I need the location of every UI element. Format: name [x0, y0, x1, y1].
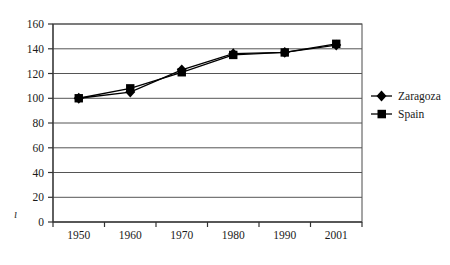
line-chart: 160 140 120 100 80 60 40 20 0 1950 1960 … — [0, 0, 450, 265]
data-point-spain-1960 — [126, 84, 134, 92]
data-point-spain-1970 — [178, 68, 186, 76]
y-tick-label-40: 40 — [33, 167, 45, 179]
y-tick-label-0: 0 — [38, 216, 44, 228]
x-tick-label-1980: 1980 — [222, 229, 245, 241]
x-tick-label-1970: 1970 — [170, 229, 193, 241]
x-tick-label-1950: 1950 — [67, 229, 90, 241]
square-icon — [378, 110, 387, 119]
x-tick-label-2001: 2001 — [325, 229, 348, 241]
chart-figure: 160 140 120 100 80 60 40 20 0 1950 1960 … — [0, 0, 450, 265]
x-tick-label-1990: 1990 — [273, 229, 296, 241]
legend-entry-zaragoza[interactable]: Zaragoza — [371, 90, 441, 103]
scan-artifact-mark: ı — [14, 207, 17, 221]
y-tick-label-140: 140 — [27, 43, 45, 55]
y-tick-label-20: 20 — [33, 191, 45, 203]
chart-background — [0, 0, 450, 265]
data-point-spain-1980 — [229, 51, 237, 59]
y-tick-label-160: 160 — [27, 18, 45, 30]
data-point-spain-2001 — [332, 40, 340, 48]
data-point-spain-1950 — [75, 94, 83, 102]
x-tick-label-1960: 1960 — [119, 229, 142, 241]
data-point-spain-1990 — [281, 48, 289, 56]
y-tick-label-100: 100 — [27, 92, 45, 104]
y-tick-label-120: 120 — [27, 68, 45, 80]
legend-label-spain: Spain — [398, 108, 424, 121]
y-tick-label-80: 80 — [33, 117, 45, 129]
y-tick-label-60: 60 — [33, 142, 45, 154]
legend-label-zaragoza: Zaragoza — [398, 90, 441, 103]
